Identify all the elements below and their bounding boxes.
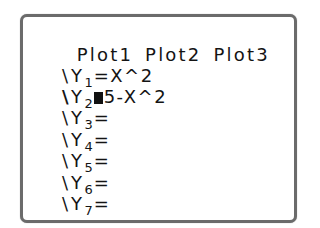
plot3-toggle[interactable]: Plot3 bbox=[213, 45, 269, 65]
equation-row-y3[interactable]: \Y3= bbox=[33, 88, 110, 108]
equation-row-y2[interactable]: \Y25-X^2 bbox=[33, 67, 167, 87]
plot-selector-row: Plot1Plot2Plot3 bbox=[45, 25, 270, 45]
equation-row-y6[interactable]: \Y6= bbox=[33, 153, 110, 173]
function-name: Y bbox=[71, 194, 84, 214]
equation-row-y1[interactable]: \Y1=X^2 bbox=[33, 46, 154, 66]
graph-style-icon[interactable]: \ bbox=[62, 194, 71, 214]
equation-row-y5[interactable]: \Y5= bbox=[33, 131, 110, 151]
equation-row-y7[interactable]: \Y7= bbox=[33, 174, 110, 194]
function-index: 7 bbox=[84, 203, 92, 218]
equation-row-y4[interactable]: \Y4= bbox=[33, 110, 110, 130]
calculator-y-editor-screen: Plot1Plot2Plot3 \Y1=X^2 \Y25-X^2 \Y3= \Y… bbox=[20, 14, 297, 223]
equation-expression[interactable]: 5-X^2 bbox=[104, 86, 167, 107]
equals-sign[interactable]: = bbox=[94, 193, 111, 214]
